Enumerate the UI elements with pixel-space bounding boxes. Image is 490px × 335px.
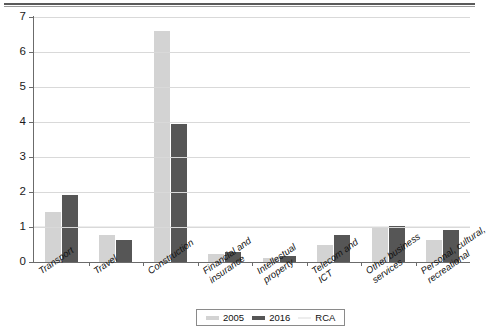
- y-tick-label: 7: [0, 11, 26, 22]
- legend-label-2005: 2005: [223, 312, 244, 323]
- gridline: [34, 192, 470, 193]
- bar-2016-1: [116, 240, 132, 262]
- y-tick-mark: [29, 262, 34, 263]
- chart-legend: 20052016RCA: [196, 309, 345, 326]
- legend-swatch-2005: [206, 316, 219, 320]
- gridline: [34, 17, 470, 18]
- gridline: [34, 52, 470, 53]
- x-tick-mark: [307, 262, 308, 266]
- gridline: [34, 122, 470, 123]
- legend-item-RCA: RCA: [298, 312, 335, 323]
- x-tick-mark: [252, 262, 253, 266]
- x-tick-mark: [143, 262, 144, 266]
- legend-item-2016: 2016: [252, 312, 290, 323]
- y-tick-label: 6: [0, 46, 26, 57]
- y-tick-label: 2: [0, 186, 26, 197]
- y-tick-label: 1: [0, 221, 26, 232]
- legend-label-RCA: RCA: [315, 312, 335, 323]
- legend-swatch-RCA: [298, 317, 311, 319]
- x-tick-mark: [416, 262, 417, 266]
- gridline: [34, 157, 470, 158]
- x-tick-mark: [198, 262, 199, 266]
- x-tick-mark: [361, 262, 362, 266]
- gridline: [34, 227, 470, 228]
- legend-swatch-2016: [252, 316, 265, 320]
- gridline: [34, 87, 470, 88]
- y-tick-label: 5: [0, 81, 26, 92]
- plot-area: [34, 17, 470, 262]
- x-tick-mark: [89, 262, 90, 266]
- legend-label-2016: 2016: [269, 312, 290, 323]
- y-tick-label: 0: [0, 256, 26, 267]
- legend-item-2005: 2005: [206, 312, 244, 323]
- y-tick-label: 4: [0, 116, 26, 127]
- y-tick-label: 3: [0, 151, 26, 162]
